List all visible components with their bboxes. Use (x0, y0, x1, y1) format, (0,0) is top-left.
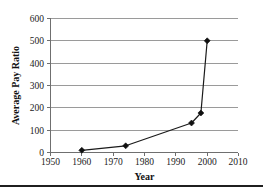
x-tick-label-1990: 1990 (166, 157, 185, 167)
y-tick-label-200: 200 (30, 103, 45, 113)
x-axis-title: Year (135, 171, 156, 182)
x-tick-label-2010: 2010 (229, 157, 248, 167)
chart-figure: 600 500 400 300 200 100 0 1950 1960 1970… (0, 0, 263, 195)
x-tick-label-1960: 1960 (72, 157, 91, 167)
y-tick-label-500: 500 (30, 36, 45, 46)
pay-ratio-line-chart: 600 500 400 300 200 100 0 1950 1960 1970… (0, 0, 263, 195)
x-tick-label-1950: 1950 (41, 157, 60, 167)
y-tick-label-100: 100 (30, 126, 45, 136)
chart-background (0, 0, 263, 195)
y-tick-label-600: 600 (30, 14, 45, 24)
y-tick-label-300: 300 (30, 81, 45, 91)
x-tick-label-2000: 2000 (198, 157, 217, 167)
x-tick-label-1980: 1980 (135, 157, 154, 167)
y-tick-label-400: 400 (30, 59, 45, 69)
footer-divider (0, 185, 263, 187)
y-axis-title: Average Pay Ratio (10, 46, 21, 125)
x-tick-label-1970: 1970 (104, 157, 123, 167)
